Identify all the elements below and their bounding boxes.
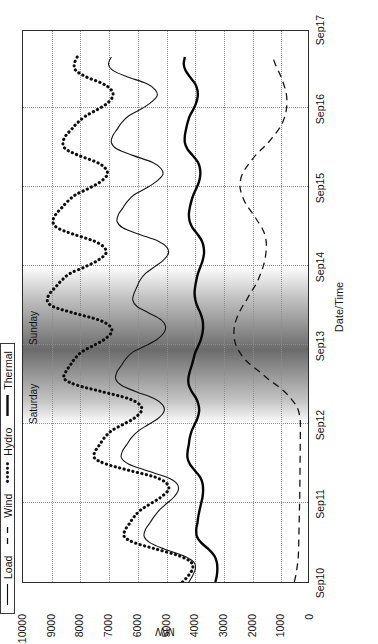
wind-series-line — [234, 57, 301, 582]
y-tick-label: 10000 — [16, 614, 28, 643]
x-tick-label: Sep17 — [314, 15, 326, 45]
y-tick-label: 3000 — [217, 614, 229, 637]
hydro-series-line — [47, 57, 193, 582]
legend-label-hydro: Hydro — [2, 428, 14, 456]
x-tick-label: Sep13 — [314, 331, 326, 361]
x-tick-label: Sep11 — [314, 489, 326, 519]
y-tick-label: 1000 — [274, 614, 286, 637]
plot-area: SaturdaySunday — [22, 30, 309, 583]
y-axis-title: MW — [155, 626, 175, 638]
x-tick-label: Sep12 — [314, 410, 326, 440]
y-tick-label: 0 — [303, 614, 315, 620]
legend-item-load[interactable]: Load — [2, 556, 14, 606]
thermal-line-key — [3, 394, 12, 417]
x-tick-label: Sep14 — [314, 252, 326, 282]
chart-legend: Load Wind Hydro Thermal — [0, 343, 15, 614]
legend-item-hydro[interactable]: Hydro — [2, 428, 14, 483]
thermal-series-line — [184, 57, 218, 582]
y-tick-label: 8000 — [73, 614, 85, 637]
legend-item-thermal[interactable]: Thermal — [2, 351, 14, 417]
y-tick-label: 7000 — [102, 614, 114, 637]
y-tick-label: 6000 — [131, 614, 143, 637]
legend-item-wind[interactable]: Wind — [2, 494, 14, 545]
series-layer — [23, 31, 308, 582]
x-tick-label: Sep16 — [314, 94, 326, 124]
x-axis-title: Date/Time — [333, 282, 345, 332]
legend-label-wind: Wind — [2, 494, 14, 518]
x-tick-label: Sep10 — [314, 568, 326, 598]
legend-label-load: Load — [2, 556, 14, 579]
y-tick-label: 4000 — [188, 614, 200, 637]
legend-label-thermal: Thermal — [2, 351, 14, 390]
load-line-key — [3, 583, 12, 606]
hydro-line-key — [3, 460, 12, 483]
rotated-figure-container: Load Wind Hydro Thermal — [0, 0, 378, 644]
y-tick-label: 2000 — [246, 614, 258, 637]
chart-figure: Load Wind Hydro Thermal — [0, 0, 378, 644]
x-tick-label: Sep15 — [314, 173, 326, 203]
wind-line-key — [3, 522, 12, 545]
y-tick-label: 9000 — [45, 614, 57, 637]
